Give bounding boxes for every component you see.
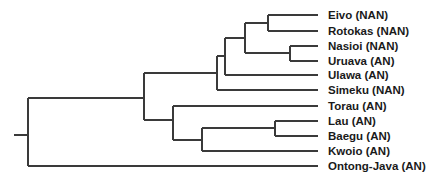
leaf-label-kwoio: Kwoio (AN) — [328, 144, 390, 158]
leaf-label-ulawa: Ulawa (AN) — [328, 68, 389, 82]
leaf-label-rotokas: Rotokas (NAN) — [328, 24, 409, 38]
leaf-label-eivo: Eivo (NAN) — [328, 8, 388, 22]
leaf-label-lau: Lau (AN) — [328, 114, 376, 128]
leaf-label-uruava: Uruava (AN) — [328, 54, 394, 68]
leaf-label-nasioi: Nasioi (NAN) — [328, 39, 398, 53]
leaf-label-simeku: Simeku (NAN) — [328, 83, 405, 97]
leaf-label-baegu: Baegu (AN) — [328, 129, 391, 143]
leaf-label-ontong-java: Ontong-Java (AN) — [328, 159, 426, 173]
leaf-label-torau: Torau (AN) — [328, 99, 387, 113]
